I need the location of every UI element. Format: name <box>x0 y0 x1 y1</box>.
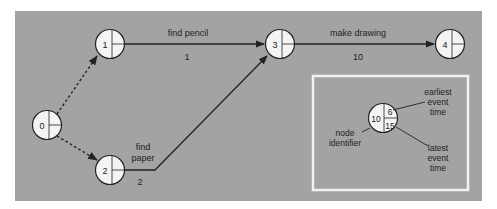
activity-duration-find-pencil: 1 <box>184 52 189 62</box>
legend-latest-value: 15 <box>385 121 395 131</box>
activity-duration-find-paper: 2 <box>137 177 142 187</box>
legend-earliest-label-2: event <box>428 97 449 107</box>
activity-duration-make-drawing: 10 <box>353 52 363 62</box>
legend-latest-label-3: time <box>430 163 446 173</box>
node-2-label: 2 <box>102 166 107 176</box>
activity-label-find-paper-2: paper <box>131 153 154 163</box>
node-3-label: 3 <box>272 40 277 50</box>
node-0: 0 <box>33 111 62 140</box>
node-4-label: 4 <box>442 40 447 50</box>
activity-label-find-paper-1: find <box>136 142 151 152</box>
network-diagram: find pencil 1 find paper 2 make drawing … <box>0 0 497 209</box>
node-1-label: 1 <box>102 40 107 50</box>
node-1: 1 <box>96 30 125 59</box>
legend-earliest-label-3: time <box>430 107 446 117</box>
node-3: 3 <box>266 30 295 59</box>
legend-identifier-label-1: node <box>336 128 355 138</box>
legend-latest-label-1: latest <box>428 143 449 153</box>
activity-label-make-drawing: make drawing <box>330 28 386 38</box>
node-4: 4 <box>436 30 465 59</box>
node-2: 2 <box>96 156 125 185</box>
legend-identifier-label-2: identifier <box>329 138 361 148</box>
legend-latest-label-2: event <box>428 153 449 163</box>
legend-earliest-value: 6 <box>388 107 393 117</box>
legend-earliest-label-1: earliest <box>424 87 452 97</box>
node-0-label: 0 <box>39 121 44 131</box>
legend-node-identifier-value: 10 <box>371 114 381 124</box>
diagram-panel <box>15 11 482 201</box>
activity-label-find-pencil: find pencil <box>168 28 209 38</box>
